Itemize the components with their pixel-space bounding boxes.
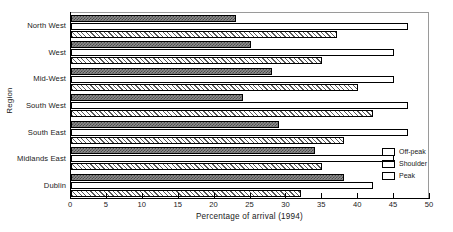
- bar-peak: [71, 84, 358, 91]
- category-label: Mid-West: [33, 74, 66, 83]
- x-axis-tick-label: 45: [389, 200, 397, 209]
- bar-chart: Region North WestWestMid-WestSouth WestS…: [0, 0, 453, 232]
- x-axis-tick: [142, 193, 143, 199]
- chart-legend: Off-peakShoulderPeak: [382, 146, 450, 182]
- category-label: Dublin: [44, 180, 66, 189]
- plot-area: [70, 12, 429, 198]
- x-axis-tick-label: 15: [173, 200, 181, 209]
- x-axis-tick: [357, 193, 358, 199]
- x-axis-tick-label: 20: [209, 200, 217, 209]
- x-axis-tick: [429, 193, 430, 199]
- category-label: North West: [27, 21, 66, 30]
- x-axis-tick: [321, 193, 322, 199]
- legend-item: Off-peak: [382, 146, 450, 157]
- x-axis-tick-label: 50: [425, 200, 433, 209]
- bar-peak: [71, 110, 373, 117]
- bar-offpeak: [71, 41, 251, 48]
- x-axis-tick-label: 10: [138, 200, 146, 209]
- x-axis-tick: [214, 193, 215, 199]
- bar-shoulder: [71, 76, 394, 83]
- bar-shoulder: [71, 129, 408, 136]
- category-label: South East: [28, 127, 66, 136]
- legend-label: Off-peak: [399, 148, 426, 155]
- category-label: West: [48, 47, 66, 56]
- bar-offpeak: [71, 94, 243, 101]
- x-axis-tick: [70, 193, 71, 199]
- legend-swatch-offpeak: [382, 148, 395, 156]
- x-axis-tick-label: 5: [104, 200, 108, 209]
- bar-shoulder: [71, 102, 408, 109]
- bar-offpeak: [71, 121, 279, 128]
- x-axis-tick-label: 35: [317, 200, 325, 209]
- bar-group: [71, 118, 429, 145]
- bar-peak: [71, 163, 322, 170]
- bar-offpeak: [71, 147, 315, 154]
- category-axis: North WestWestMid-WestSouth WestSouth Ea…: [14, 12, 68, 198]
- bar-shoulder: [71, 49, 394, 56]
- bar-shoulder: [71, 23, 408, 30]
- legend-label: Shoulder: [399, 160, 427, 167]
- bar-group: [71, 12, 429, 39]
- bar-shoulder: [71, 155, 394, 162]
- bar-offpeak: [71, 68, 272, 75]
- x-axis-tick: [250, 193, 251, 199]
- legend-label: Peak: [399, 172, 415, 179]
- bar-peak: [71, 137, 344, 144]
- x-axis-tick: [393, 193, 394, 199]
- bar-peak: [71, 57, 322, 64]
- x-axis-tick: [106, 193, 107, 199]
- x-axis-tick-label: 25: [245, 200, 253, 209]
- x-axis-title: Percentage of arrival (1994): [70, 212, 429, 221]
- bar-offpeak: [71, 174, 344, 181]
- x-axis-tick-label: 0: [68, 200, 72, 209]
- legend-swatch-peak: [382, 172, 395, 180]
- bar-peak: [71, 31, 337, 38]
- bar-offpeak: [71, 15, 236, 22]
- legend-swatch-shoulder: [382, 160, 395, 168]
- bar-group: [71, 39, 429, 66]
- y-axis-title-text: Region: [5, 87, 14, 114]
- legend-item: Peak: [382, 170, 450, 181]
- x-axis-tick-label: 40: [353, 200, 361, 209]
- legend-item: Shoulder: [382, 158, 450, 169]
- bar-shoulder: [71, 182, 373, 189]
- x-axis-tick-label: 30: [281, 200, 289, 209]
- category-label: South West: [26, 101, 66, 110]
- bar-group: [71, 145, 429, 172]
- x-axis-tick: [178, 193, 179, 199]
- bar-group: [71, 65, 429, 92]
- category-label: Midlands East: [17, 154, 66, 163]
- bar-group: [71, 92, 429, 119]
- x-axis-tick: [285, 193, 286, 199]
